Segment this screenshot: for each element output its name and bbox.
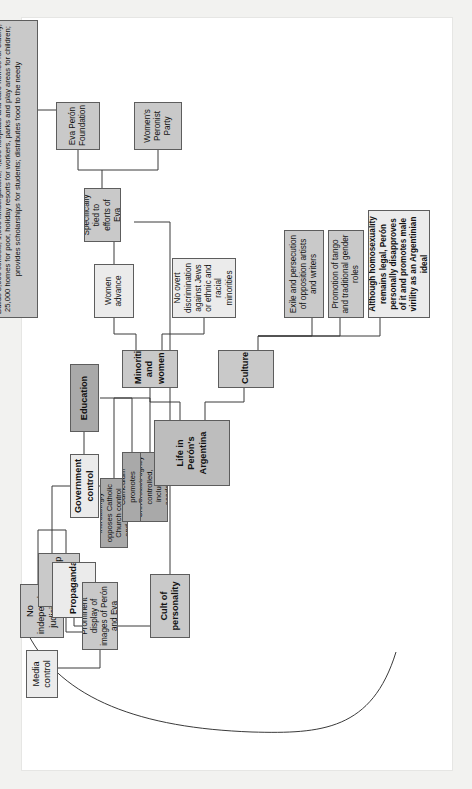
node-education[interactable]: Education: [70, 364, 99, 432]
node-specifically-tied[interactable]: Specifically tied to efforts of Eva: [84, 188, 121, 242]
edge-life-culture: [205, 388, 244, 420]
node-government-control-label: Government control: [73, 458, 96, 514]
node-no-overt-discrimination-label: No overt discrimination against Jews or …: [173, 262, 235, 314]
node-culture-label: Culture: [240, 354, 252, 384]
node-education-label: Education: [79, 368, 91, 428]
node-minorities-and-women[interactable]: Minorities and women: [122, 350, 178, 388]
node-promotion-tango[interactable]: Promotion of tango and traditional gende…: [328, 230, 364, 318]
node-eva-peron-foundation-label: Eva Perón Foundation: [68, 106, 89, 146]
node-exile-persecution-label: Exile and persecution of opposition arti…: [289, 234, 320, 314]
diagram-page: Media control No independent judiciary C…: [0, 0, 472, 789]
node-foundation-works[interactable]: Builds 8,000 schools, 1,000 kindergarten…: [0, 20, 38, 318]
node-women-advance-label: Women advance: [104, 268, 125, 314]
diagram-paper: Media control No independent judiciary C…: [22, 18, 452, 770]
node-minorities-and-women-label: Minorities and women: [133, 354, 168, 384]
edge-edu-church: [100, 398, 114, 478]
node-life-in-perons-argentina[interactable]: Life in Perón's Argentina: [154, 420, 230, 486]
node-media-control[interactable]: Media control: [26, 650, 58, 698]
node-foundation-works-label: Builds 8,000 schools, 1,000 kindergarten…: [0, 24, 22, 314]
edge-culture-tango: [258, 318, 340, 336]
edge-specifically-party: [102, 150, 158, 170]
node-prominent-display[interactable]: Prominent display of images of Perón and…: [82, 582, 118, 650]
node-government-control[interactable]: Government control: [70, 454, 99, 518]
node-no-overt-discrimination[interactable]: No overt discrimination against Jews or …: [172, 258, 236, 318]
node-women-advance[interactable]: Women advance: [94, 264, 134, 318]
rotated-diagram-stage: Media control No independent judiciary C…: [22, 18, 452, 770]
node-prominent-display-label: Prominent display of images of Perón and…: [82, 586, 118, 646]
edge-gov-censorship: [52, 486, 70, 553]
edge-culture-homosexuality: [258, 318, 380, 336]
node-culture[interactable]: Culture: [218, 350, 274, 388]
edge-min-no-discrimination: [162, 318, 204, 350]
edge-culture-exile: [258, 318, 312, 350]
node-womens-peronist-party[interactable]: Women's Peronist Party: [134, 102, 182, 150]
edge-edu-curriculum: [114, 398, 132, 452]
node-specifically-tied-label: Specifically tied to efforts of Eva: [84, 192, 121, 238]
edge-life-minorities: [150, 388, 180, 420]
node-homosexuality[interactable]: Although homosexuality remains legal, Pe…: [368, 210, 430, 318]
node-exile-persecution[interactable]: Exile and persecution of opposition arti…: [284, 230, 324, 318]
diagram-canvas: Media control No independent judiciary C…: [22, 18, 452, 770]
node-promotion-tango-label: Promotion of tango and traditional gende…: [331, 234, 362, 314]
node-media-control-label: Media control: [31, 654, 54, 694]
node-cult-of-personality[interactable]: Cult of personality: [150, 574, 190, 638]
node-cult-of-personality-label: Cult of personality: [159, 578, 182, 634]
edge-min-women-advance: [114, 318, 136, 350]
node-life-in-perons-argentina-label: Life in Perón's Argentina: [175, 424, 210, 482]
node-womens-peronist-party-label: Women's Peronist Party: [143, 106, 174, 146]
edge-specifically-foundation: [78, 150, 102, 188]
node-homosexuality-label: Although homosexuality remains legal, Pe…: [368, 214, 430, 314]
node-eva-peron-foundation[interactable]: Eva Perón Foundation: [56, 102, 100, 150]
node-propaganda-label: Propaganda: [68, 566, 80, 614]
